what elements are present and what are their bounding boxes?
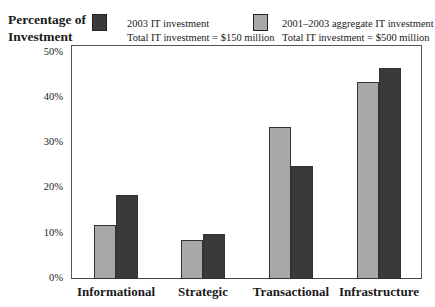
- bar-informational-2001-2003: [94, 225, 116, 279]
- legend-note: Total IT investment = $150 million: [127, 31, 275, 45]
- legend-note: Total IT investment = $500 million: [282, 31, 434, 45]
- y-tick-label: 0%: [23, 272, 63, 283]
- bar-strategic-2003: [203, 234, 225, 279]
- y-tick-label: 10%: [23, 227, 63, 238]
- y-tick-label: 50%: [23, 46, 63, 57]
- legend-title: 2001–2003 aggregate IT investment: [282, 17, 434, 31]
- legend-swatch: [253, 14, 268, 31]
- x-category-label: Infrastructure: [324, 284, 434, 300]
- y-axis-title-line1: Percentage of: [8, 11, 86, 28]
- bar-informational-2003: [116, 195, 138, 279]
- bar-infrastructure-2001-2003: [357, 82, 379, 279]
- bar-infrastructure-2003: [379, 68, 401, 279]
- bar-transactional-2003: [291, 166, 313, 279]
- legend-label: 2001–2003 aggregate IT investmentTotal I…: [282, 17, 434, 45]
- y-tick-label: 20%: [23, 181, 63, 192]
- bar-strategic-2001-2003: [181, 240, 203, 279]
- legend-swatch: [92, 14, 107, 31]
- y-tick-label: 30%: [23, 136, 63, 147]
- y-axis-title-line2: Investment: [8, 28, 86, 45]
- y-tick-label: 40%: [23, 91, 63, 102]
- y-axis-title: Percentage of Investment: [8, 11, 86, 45]
- bar-transactional-2001-2003: [269, 127, 291, 279]
